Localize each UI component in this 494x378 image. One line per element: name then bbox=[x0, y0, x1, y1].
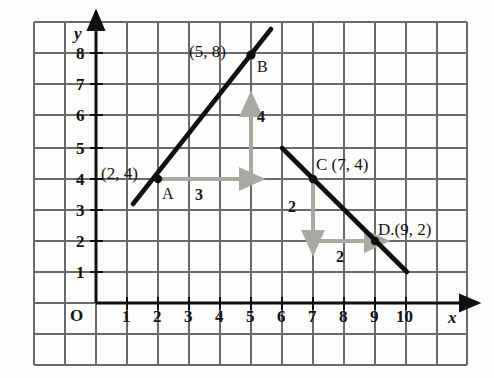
point-b-dot bbox=[246, 50, 255, 59]
diagram-canvas: 8 7 6 5 4 3 2 1 1 2 3 4 5 6 7 8 9 10 O x… bbox=[0, 0, 494, 378]
point-a-label: A bbox=[162, 185, 174, 203]
x-tick-7: 7 bbox=[308, 307, 317, 327]
y-tick-7: 7 bbox=[76, 75, 85, 95]
x-tick-2: 2 bbox=[153, 307, 162, 327]
x-tick-9: 9 bbox=[370, 307, 379, 327]
point-a-coord-label: (2, 4) bbox=[101, 164, 138, 184]
x-tick-10: 10 bbox=[396, 307, 413, 327]
slope-triangle-ab bbox=[158, 113, 251, 179]
point-b-label: B bbox=[257, 58, 268, 76]
point-c-dot bbox=[309, 175, 317, 183]
y-tick-8: 8 bbox=[76, 44, 85, 64]
x-tick-1: 1 bbox=[122, 307, 131, 327]
x-tick-8: 8 bbox=[339, 307, 348, 327]
x-tick-5: 5 bbox=[246, 307, 255, 327]
y-tick-2: 2 bbox=[76, 232, 85, 252]
point-b-coord-label: (5, 8) bbox=[189, 42, 226, 62]
y-tick-6: 6 bbox=[76, 106, 85, 126]
y-tick-3: 3 bbox=[76, 201, 85, 221]
origin-label: O bbox=[70, 306, 83, 326]
x-tick-6: 6 bbox=[277, 307, 286, 327]
y-axis-label: y bbox=[74, 24, 82, 44]
point-d-label: D.(9, 2) bbox=[378, 220, 431, 240]
y-tick-4: 4 bbox=[76, 170, 85, 190]
x-tick-3: 3 bbox=[184, 307, 193, 327]
rise-label-ab: 4 bbox=[257, 108, 265, 126]
x-tick-4: 4 bbox=[215, 307, 224, 327]
y-tick-1: 1 bbox=[76, 263, 85, 283]
y-tick-5: 5 bbox=[76, 139, 85, 159]
x-axis-label: x bbox=[448, 308, 457, 328]
rise-label-cd: 2 bbox=[288, 198, 296, 216]
point-a-dot bbox=[154, 175, 162, 183]
run-label-ab: 3 bbox=[195, 186, 203, 204]
point-c-label: C (7, 4) bbox=[316, 155, 368, 175]
run-label-cd: 2 bbox=[336, 248, 344, 266]
